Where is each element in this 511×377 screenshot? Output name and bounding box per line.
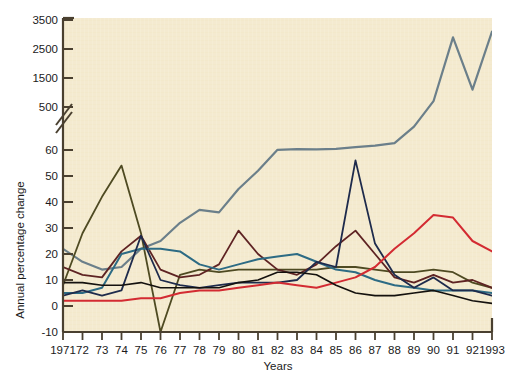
x-tick-label-1977: 77 xyxy=(174,344,187,356)
x-tick-label-1983: 83 xyxy=(291,344,304,356)
x-tick-label-1988: 88 xyxy=(388,344,401,356)
x-tick-label-1980: 80 xyxy=(232,344,245,356)
y-tick-label-1500: 1500 xyxy=(32,72,58,84)
y-tick-label-2500: 2500 xyxy=(32,43,58,55)
x-tick-label-1985: 85 xyxy=(330,344,343,356)
x-tick-label-1979: 79 xyxy=(213,344,226,356)
y-tick-label-10: 10 xyxy=(45,274,58,286)
y-tick-label-40: 40 xyxy=(45,196,58,208)
y-tick-label-0: 0 xyxy=(52,300,58,312)
x-tick-label-1973: 73 xyxy=(96,344,109,356)
x-tick-label-1990: 90 xyxy=(427,344,440,356)
y-tick-label-20: 20 xyxy=(45,248,58,260)
x-tick-label-1971: 1971 xyxy=(50,344,76,356)
line-chart: -100102030405060500150025003500 19717273… xyxy=(0,0,511,377)
x-tick-label-1982: 82 xyxy=(271,344,284,356)
y-tick-label-50: 50 xyxy=(45,170,58,182)
x-tick-label-1972: 72 xyxy=(76,344,89,356)
x-tick-label-1991: 91 xyxy=(447,344,460,356)
x-tick-label-1989: 89 xyxy=(408,344,421,356)
y-tick-label--10: -10 xyxy=(41,326,58,338)
x-tick-label-1978: 78 xyxy=(193,344,206,356)
x-tick-label-1975: 75 xyxy=(135,344,148,356)
x-tick-label-1993: 1993 xyxy=(479,344,505,356)
y-tick-label-3500: 3500 xyxy=(32,14,58,26)
x-tick-label-1987: 87 xyxy=(369,344,382,356)
x-axis-title: Years xyxy=(264,360,293,372)
x-tick-label-1986: 86 xyxy=(349,344,362,356)
chart-figure: -100102030405060500150025003500 19717273… xyxy=(0,0,511,377)
y-tick-label-500: 500 xyxy=(39,101,58,113)
x-tick-label-1992: 92 xyxy=(466,344,479,356)
y-tick-label-30: 30 xyxy=(45,222,58,234)
y-axis-title: Annual percentage change xyxy=(14,181,26,318)
y-tick-label-60: 60 xyxy=(45,144,58,156)
x-tick-label-1984: 84 xyxy=(310,344,323,356)
x-tick-label-1981: 81 xyxy=(252,344,265,356)
x-tick-label-1974: 74 xyxy=(115,344,128,356)
x-tick-label-1976: 76 xyxy=(154,344,167,356)
